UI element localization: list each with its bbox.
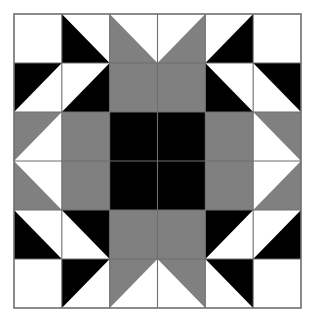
patch-background-r4-c2: [110, 210, 158, 259]
quilt-block-diagram: [0, 0, 315, 325]
patch-background-r2-c1: [62, 112, 110, 161]
patch-background-r5-c5: [253, 259, 301, 308]
patch-background-r1-c2: [110, 63, 158, 112]
patch-background-r2-c4: [205, 112, 253, 161]
patch-background-r2-c2: [110, 112, 158, 161]
patch-background-r5-c0: [14, 259, 62, 308]
patch-background-r4-c3: [157, 210, 205, 259]
patch-background-r3-c4: [205, 161, 253, 210]
patch-background-r0-c0: [14, 14, 62, 63]
patch-background-r1-c3: [157, 63, 205, 112]
patch-background-r2-c3: [157, 112, 205, 161]
patch-background-r0-c5: [253, 14, 301, 63]
patch-background-r3-c2: [110, 161, 158, 210]
patch-background-r3-c1: [62, 161, 110, 210]
patch-background-r3-c3: [157, 161, 205, 210]
quilt-block-canvas: [0, 0, 315, 325]
